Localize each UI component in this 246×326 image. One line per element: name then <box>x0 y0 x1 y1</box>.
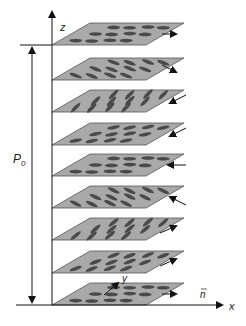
layer-plane <box>52 186 186 209</box>
molecule <box>120 170 133 174</box>
molecule <box>139 33 152 37</box>
molecule <box>123 286 136 290</box>
layer-plane <box>52 251 184 273</box>
layer-stack <box>52 23 186 305</box>
molecule <box>89 32 102 36</box>
molecule <box>89 163 102 167</box>
layer-plane <box>52 154 186 176</box>
molecule <box>142 156 155 160</box>
layer-plane <box>52 88 186 114</box>
molecule <box>105 293 118 297</box>
molecule <box>139 164 152 168</box>
molecule <box>104 169 117 173</box>
molecule <box>157 157 170 161</box>
pitch-label-p: P <box>13 152 21 166</box>
pitch-label: P0 <box>13 152 26 168</box>
y-axis-label: y <box>121 273 128 284</box>
director-arrow-icon <box>170 197 186 205</box>
layer-plane <box>52 216 184 241</box>
molecule <box>104 38 117 42</box>
molecule <box>139 293 152 297</box>
molecule <box>123 163 136 167</box>
molecule <box>105 164 118 168</box>
molecule <box>89 292 102 296</box>
molecule <box>104 298 117 302</box>
molecule <box>142 25 155 29</box>
molecule <box>69 299 82 303</box>
z-axis-label: z <box>59 21 66 33</box>
molecule <box>120 299 133 303</box>
molecule <box>157 286 170 290</box>
molecule <box>123 26 136 30</box>
layer-plane <box>52 23 184 45</box>
layer-plane <box>52 58 184 80</box>
molecule <box>107 157 120 161</box>
layer-plane <box>52 283 184 305</box>
molecule <box>157 26 170 30</box>
molecule <box>123 32 136 36</box>
molecule <box>69 170 82 174</box>
director-label: n <box>200 289 206 300</box>
molecule <box>105 33 118 37</box>
layer-plane <box>52 123 186 145</box>
molecule <box>120 39 133 43</box>
molecule <box>123 292 136 296</box>
molecule <box>142 285 155 289</box>
molecule <box>85 39 98 43</box>
molecule <box>85 299 98 303</box>
molecule <box>107 26 120 30</box>
x-axis-label: x <box>228 300 235 312</box>
molecule <box>123 157 136 161</box>
molecule <box>85 170 98 174</box>
molecule <box>69 39 82 43</box>
cholesteric-helix-diagram: z x P0 y n <box>0 0 246 326</box>
pitch-label-subscript: 0 <box>21 159 26 168</box>
